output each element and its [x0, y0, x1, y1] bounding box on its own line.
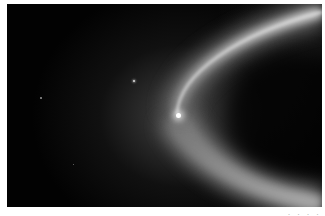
star-point [73, 164, 74, 165]
image-frame: · · · · [0, 0, 325, 216]
star-point [133, 80, 135, 82]
star-point [40, 97, 42, 99]
enceladus-moon [176, 113, 181, 118]
e-ring-arc [7, 4, 322, 207]
astronomical-photo [7, 4, 322, 207]
image-caption: · · · · [288, 209, 322, 216]
